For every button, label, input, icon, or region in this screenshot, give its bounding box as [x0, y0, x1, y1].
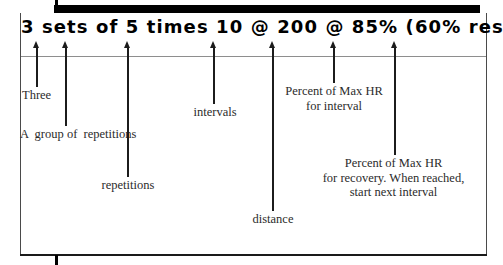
arrowhead-sets: [33, 41, 39, 48]
leader-line-group: [65, 48, 67, 126]
annotated-workout-notation-figure: 3 sets of 5 times 10 @ 200 @ 85% (60% re…: [0, 0, 503, 265]
leader-line-reps: [127, 48, 129, 177]
annotation-label-hr_recovery: Percent of Max HR for recovery. When rea…: [306, 156, 481, 200]
leader-line-distance: [272, 48, 274, 211]
annotation-label-intervals: intervals: [180, 105, 250, 120]
bottom-callout-tick: [55, 255, 58, 265]
annotation-label-distance: distance: [238, 212, 308, 227]
arrowhead-hr_interval: [330, 41, 336, 48]
leader-line-hr_recovery: [394, 48, 396, 155]
leader-line-hr_interval: [333, 48, 335, 83]
annotation-label-hr_interval: Percent of Max HR for interval: [276, 84, 392, 113]
leader-line-intervals: [213, 48, 215, 104]
frame-right-border: [486, 13, 487, 255]
arrowhead-intervals: [210, 41, 216, 48]
arrowhead-group: [62, 41, 68, 48]
arrowhead-reps: [124, 41, 130, 48]
annotation-label-reps: repetitions: [88, 178, 168, 193]
workout-notation-headline: 3 sets of 5 times 10 @ 200 @ 85% (60% re…: [21, 16, 486, 37]
annotation-label-group: A group of repetitions: [20, 127, 180, 142]
arrowhead-distance: [269, 41, 275, 48]
horizontal-divider-rule: [21, 56, 486, 57]
leader-line-sets: [36, 48, 38, 87]
arrowhead-hr_recovery: [391, 41, 397, 48]
top-black-bar: [54, 5, 480, 13]
annotation-label-sets: Three: [22, 88, 92, 103]
frame-bottom-border: [20, 254, 487, 256]
